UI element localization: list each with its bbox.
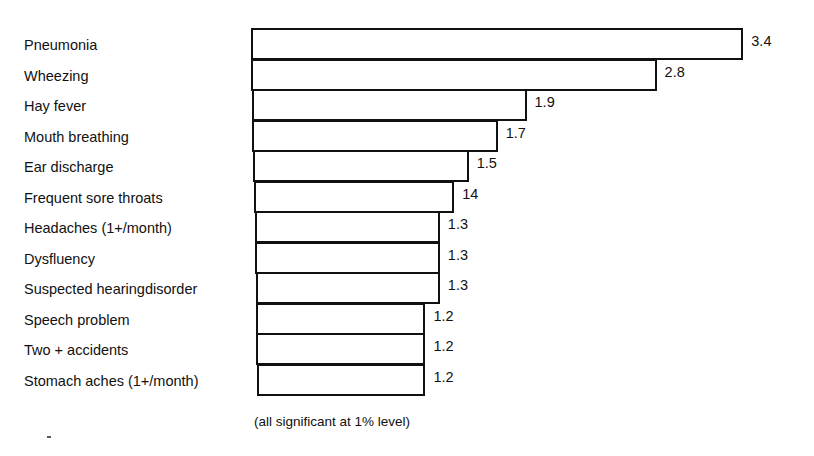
bar	[255, 211, 440, 243]
value-label: 14	[462, 185, 478, 203]
bar	[256, 333, 425, 365]
value-label: 1.2	[433, 307, 453, 325]
value-label: 1.2	[433, 337, 453, 355]
category-label: Speech problem	[24, 311, 130, 329]
category-label: Ear discharge	[24, 158, 113, 176]
significance-footnote: (all significant at 1% level)	[254, 414, 410, 429]
bar	[256, 272, 440, 304]
category-label: Suspected hearingdisorder	[24, 280, 197, 298]
category-label: Hay fever	[24, 97, 86, 115]
category-label: Stomach aches (1+/month)	[24, 372, 199, 390]
bar	[254, 181, 454, 213]
value-label: 1.3	[448, 215, 468, 233]
bar	[253, 150, 469, 182]
category-label: Wheezing	[24, 67, 88, 85]
value-label: 1.2	[433, 368, 453, 386]
bar	[252, 89, 527, 121]
bar	[251, 28, 743, 60]
bar	[257, 364, 425, 396]
bar	[252, 120, 498, 152]
bar	[255, 242, 440, 274]
bar	[256, 303, 425, 335]
value-label: 1.9	[535, 93, 555, 111]
category-label: Dysfluency	[24, 250, 95, 268]
bar	[251, 59, 657, 91]
value-label: 1.5	[477, 154, 497, 172]
category-label: Two + accidents	[24, 341, 128, 359]
category-label: Pneumonia	[24, 36, 97, 54]
value-label: 1.7	[506, 124, 526, 142]
value-label: 2.8	[665, 63, 685, 81]
value-label: 3.4	[751, 32, 771, 50]
category-label: Headaches (1+/month)	[24, 219, 172, 237]
category-label: Mouth breathing	[24, 128, 129, 146]
value-label: 1.3	[448, 276, 468, 294]
value-label: 1.3	[448, 246, 468, 264]
stray-mark	[47, 436, 51, 438]
category-label: Frequent sore throats	[24, 189, 163, 207]
